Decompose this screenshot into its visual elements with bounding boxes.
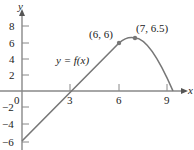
x-tick-label: 3 xyxy=(67,94,73,106)
y-tick-label: −2 xyxy=(2,101,14,113)
y-ticks xyxy=(22,26,29,142)
point-marker xyxy=(133,36,137,40)
y-tick-label: −4 xyxy=(2,118,14,130)
x-axis-arrow-icon xyxy=(181,88,188,94)
curve-f xyxy=(22,38,173,141)
x-tick-label: 6 xyxy=(116,94,122,106)
x-tick-label: 9 xyxy=(164,94,170,106)
y-tick-label: 2 xyxy=(9,69,15,81)
point-marker xyxy=(117,41,121,45)
chart: y x 8 6 4 2 −2 −4 −6 0 3 6 9 y = f(x) (6… xyxy=(0,0,194,150)
x-axis-label: x xyxy=(187,84,193,96)
y-tick-label: 8 xyxy=(9,20,15,32)
point-label: (7, 6.5) xyxy=(136,22,168,35)
point-label: (6, 6) xyxy=(89,28,113,41)
y-tick-label: −6 xyxy=(2,136,14,148)
y-tick-label: 6 xyxy=(9,37,15,49)
function-label: y = f(x) xyxy=(55,54,89,67)
x-ticks xyxy=(70,84,167,91)
origin-label: 0 xyxy=(14,94,20,106)
y-axis-label: y xyxy=(17,0,23,12)
y-tick-label: 4 xyxy=(9,53,15,65)
